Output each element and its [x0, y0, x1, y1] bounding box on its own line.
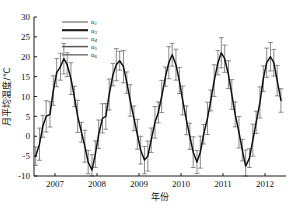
legend-label-subscript: 5 [95, 46, 98, 51]
x-tick-label: 2007 [46, 179, 65, 189]
y-tick-label: 30 [21, 12, 31, 22]
data-series-line [36, 53, 281, 170]
x-tick-label: 2012 [256, 179, 274, 189]
y-tick-label: -5 [23, 151, 31, 161]
y-tick-label: 15 [21, 72, 31, 82]
legend-label-subscript: 3 [95, 30, 98, 35]
legend-label-u3: u3 [91, 27, 98, 35]
x-tick-label: 2011 [214, 179, 232, 189]
legend-label-u1: u1 [91, 18, 97, 26]
legend-label-subscript: 6 [95, 54, 98, 59]
y-tick-label: 5 [26, 112, 31, 122]
y-axis-title: 月平均温度/℃ [1, 67, 12, 125]
x-tick-label: 2009 [130, 179, 149, 189]
y-tick-label: 20 [21, 52, 31, 62]
y-tick-label: -10 [18, 171, 30, 181]
x-tick-label: 2010 [172, 179, 191, 189]
y-tick-label: 0 [26, 131, 31, 141]
legend-label-u6: u6 [91, 51, 98, 59]
x-axis-title: 年份 [151, 191, 169, 202]
x-tick-label: 2008 [88, 179, 107, 189]
axis-frame [34, 17, 286, 176]
temperature-time-series-chart: -10-505101520253020072008200920102011201… [0, 0, 300, 211]
legend-label-u5: u5 [91, 43, 98, 51]
error-bar-group [33, 38, 283, 176]
chart-figure: -10-505101520253020072008200920102011201… [0, 0, 300, 211]
legend-label-u4: u4 [91, 35, 98, 43]
legend-label-subscript: 1 [95, 21, 98, 26]
legend-label-subscript: 4 [95, 38, 98, 43]
y-tick-label: 25 [21, 32, 31, 42]
y-tick-label: 10 [21, 92, 31, 102]
